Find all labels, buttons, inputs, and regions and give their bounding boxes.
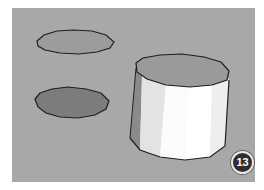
scene-drawing (12, 8, 255, 182)
extruded-cylinder[interactable] (130, 54, 229, 160)
polygon-face-dark[interactable] (35, 87, 109, 118)
step-number: 13 (236, 156, 248, 168)
modeling-viewport[interactable] (12, 8, 255, 182)
step-number-badge: 13 (231, 151, 254, 174)
polygon-face-light[interactable] (37, 30, 114, 54)
